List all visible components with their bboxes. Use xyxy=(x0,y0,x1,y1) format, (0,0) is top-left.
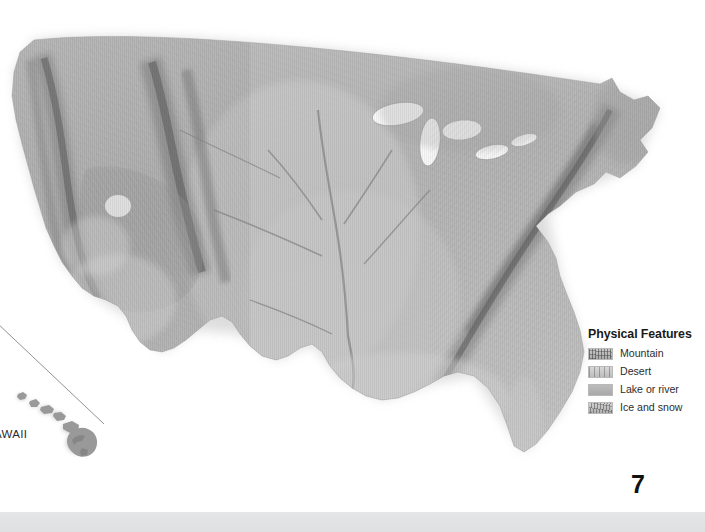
legend-item-desert: Desert xyxy=(588,365,700,378)
ice-and-snow-swatch-icon xyxy=(588,402,613,414)
page-footer-bar xyxy=(0,512,705,532)
hawaiian-islands xyxy=(17,392,97,457)
map-stage: AWAII xyxy=(0,0,705,512)
page-number: 7 xyxy=(631,472,645,497)
legend-title: Physical Features xyxy=(588,327,700,341)
legend-item-mountain: Mountain xyxy=(588,347,700,360)
hawaii-inset-label: AWAII xyxy=(0,428,27,440)
mountain-swatch-icon xyxy=(588,348,613,360)
desert-swatch-icon xyxy=(588,366,613,378)
physical-relief-map xyxy=(0,0,705,512)
contiguous-us-landmass xyxy=(0,0,705,512)
legend-label-mountain: Mountain xyxy=(620,347,664,360)
atlas-page: AWAII Physical Features Mountain Desert … xyxy=(0,0,705,532)
lake-or-river-swatch-icon xyxy=(588,384,613,396)
legend-label-desert: Desert xyxy=(620,365,651,378)
legend-label-lake-or-river: Lake or river xyxy=(620,383,679,396)
legend-item-ice-and-snow: Ice and snow xyxy=(588,401,700,414)
physical-features-legend: Physical Features Mountain Desert Lake o… xyxy=(588,327,700,419)
legend-item-lake-or-river: Lake or river xyxy=(588,383,700,396)
legend-label-ice-and-snow: Ice and snow xyxy=(620,401,682,414)
